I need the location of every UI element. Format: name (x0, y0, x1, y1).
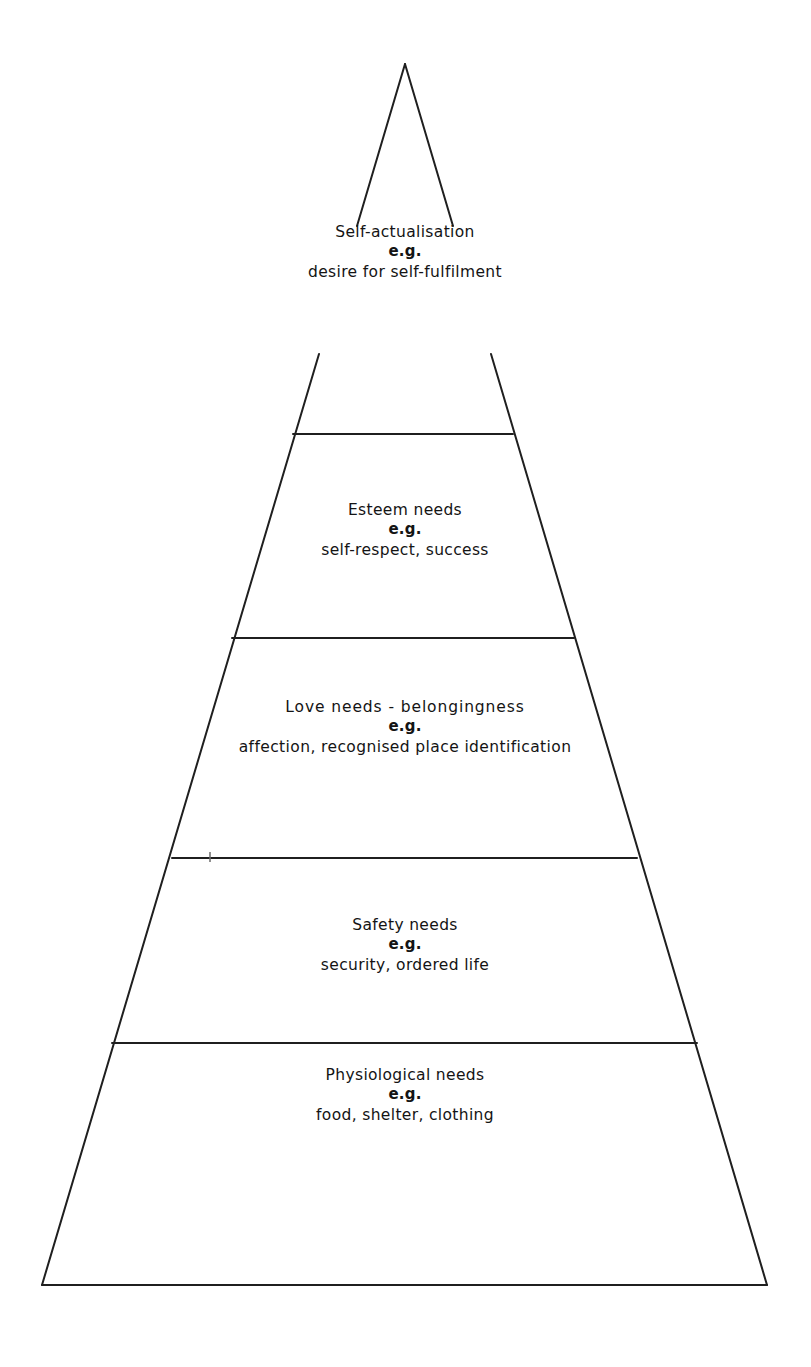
pyramid-outline-graphic (0, 0, 811, 1367)
pyramid-left-edge-lower (42, 354, 319, 1285)
pyramid-right-edge-upper (405, 64, 453, 226)
hierarchy-of-needs-diagram: Self-actualisation e.g. desire for self-… (0, 0, 811, 1367)
pyramid-right-edge-lower (491, 354, 767, 1285)
pyramid-left-edge-upper (357, 64, 405, 226)
